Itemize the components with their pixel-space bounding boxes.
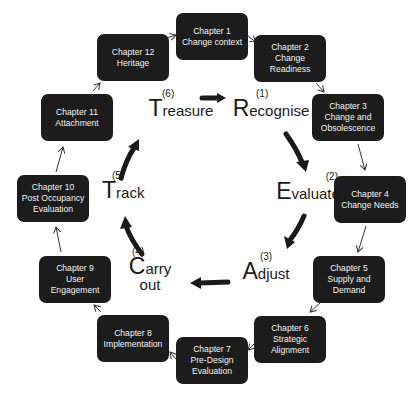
chapter-7-subtitle-line-2: Evaluation bbox=[192, 366, 232, 377]
stage-6-initial: T bbox=[149, 95, 163, 121]
stage-4-second-line: out bbox=[120, 277, 180, 293]
chapter-12-title: Chapter 12 bbox=[112, 47, 155, 58]
chapter-12-subtitle: Heritage bbox=[117, 58, 149, 69]
stage-4-label: Carry bbox=[120, 258, 180, 277]
chapter-8-subtitle: Implementation bbox=[104, 339, 163, 350]
chapter-11-subtitle: Attachment bbox=[55, 118, 98, 129]
chapter-1-box: Chapter 1 Change context bbox=[176, 13, 248, 60]
connector-arrow-6 bbox=[310, 303, 320, 312]
chapter-2-subtitle-line-1: Change bbox=[275, 53, 305, 64]
connector-arrow-9 bbox=[94, 305, 101, 312]
stage-1-label: Recognise bbox=[226, 100, 316, 119]
chapter-3-subtitle-line-1: Change and bbox=[325, 112, 372, 123]
connector-arrow-5 bbox=[358, 226, 366, 252]
chapter-2-title: Chapter 2 bbox=[271, 42, 309, 53]
chapter-5-subtitle-line-1: Supply and bbox=[327, 274, 370, 285]
arrow-evaluate-to-adjust bbox=[284, 216, 304, 249]
stage-1-initial: R bbox=[233, 95, 250, 121]
chapter-6-box: Chapter 6 Strategic Alignment bbox=[254, 316, 326, 363]
stage-adjust: (3) Adjust bbox=[236, 251, 296, 282]
stage-track: (5) Track bbox=[96, 170, 156, 201]
chapter-8-box: Chapter 8 Implementation bbox=[97, 315, 169, 362]
chapter-6-title: Chapter 6 bbox=[271, 323, 309, 334]
chapter-9-subtitle-line-1: User bbox=[66, 274, 84, 285]
chapter-3-subtitle-line-2: Obsolescence bbox=[321, 123, 375, 134]
chapter-3-box: Chapter 3 Change and Obsolescence bbox=[312, 94, 384, 141]
chapter-4-title: Chapter 4 bbox=[351, 189, 389, 200]
chapter-10-box: Chapter 10 Post Occupancy Evaluation bbox=[17, 175, 89, 222]
chapter-7-subtitle-line-1: Pre-Design bbox=[191, 355, 234, 366]
stage-5-label: Track bbox=[96, 182, 156, 201]
chapter-8-title: Chapter 8 bbox=[114, 328, 152, 339]
chapter-9-subtitle-line-2: Engagement bbox=[51, 285, 100, 296]
chapter-11-box: Chapter 11 Attachment bbox=[41, 94, 113, 141]
stage-treasure: (6) Treasure bbox=[136, 88, 226, 119]
stage-1-rest: ecognise bbox=[249, 102, 309, 119]
stage-2-initial: E bbox=[276, 178, 291, 204]
stage-2-label: Evaluate bbox=[268, 183, 348, 202]
arrow-recognise-to-evaluate bbox=[286, 134, 309, 172]
chapter-5-box: Chapter 5 Supply and Demand bbox=[313, 256, 385, 303]
chapter-9-title: Chapter 9 bbox=[56, 263, 94, 274]
connector-arrow-11 bbox=[56, 147, 63, 172]
chapter-3-title: Chapter 3 bbox=[329, 101, 367, 112]
chapter-12-box: Chapter 12 Heritage bbox=[97, 34, 169, 81]
stage-recognise: (1) Recognise bbox=[226, 88, 316, 119]
stage-6-label: Treasure bbox=[136, 100, 226, 119]
chapter-5-subtitle-line-2: Demand bbox=[333, 285, 365, 296]
stage-3-rest: djust bbox=[258, 265, 290, 282]
chapter-7-box: Chapter 7 Pre-Design Evaluation bbox=[176, 337, 248, 384]
stage-5-rest: rack bbox=[116, 184, 144, 201]
stage-2-rest: valuate bbox=[291, 185, 339, 202]
chapter-10-subtitle-line-1: Post Occupancy bbox=[22, 193, 85, 204]
chapter-6-subtitle-line-2: Alignment bbox=[271, 345, 309, 356]
chapter-6-subtitle-line-1: Strategic bbox=[273, 334, 307, 345]
connector-arrow-10 bbox=[56, 227, 61, 252]
stage-6-rest: reasure bbox=[163, 102, 214, 119]
stage-3-initial: A bbox=[242, 258, 257, 284]
chapter-2-subtitle-line-2: Readiness bbox=[270, 64, 311, 75]
arrow-recognise-to-evaluate-shaft bbox=[286, 134, 302, 162]
stage-evaluate-label: (2) Evaluate bbox=[268, 171, 348, 202]
arrow-carry-out-to-track-head bbox=[120, 216, 132, 229]
chapter-1-subtitle: Change context bbox=[182, 37, 242, 48]
chapter-5-title: Chapter 5 bbox=[330, 263, 368, 274]
stage-3-label: Adjust bbox=[236, 263, 296, 282]
arrow-adjust-to-carry-out bbox=[190, 277, 228, 289]
arrow-adjust-to-carry-out-shaft bbox=[200, 282, 228, 283]
connector-arrow-4 bbox=[358, 144, 365, 170]
stage-5-initial: T bbox=[102, 177, 116, 203]
chapter-2-box: Chapter 2 Change Readiness bbox=[254, 35, 326, 82]
connector-arrow-3 bbox=[316, 83, 324, 92]
connector-arrow-12 bbox=[93, 83, 100, 91]
arrow-evaluate-to-adjust-shaft bbox=[290, 216, 304, 240]
stage-carry-out: (4) Carry out bbox=[120, 246, 180, 293]
chapter-4-subtitle: Change Needs bbox=[341, 200, 398, 211]
chapter-10-subtitle-line-2: Evaluation bbox=[33, 204, 73, 215]
chapter-9-box: Chapter 9 User Engagement bbox=[39, 256, 111, 303]
stage-4-rest: arry bbox=[145, 260, 171, 277]
chapter-7-title: Chapter 7 bbox=[193, 344, 231, 355]
chapter-10-title: Chapter 10 bbox=[32, 182, 75, 193]
chapter-11-title: Chapter 11 bbox=[56, 107, 98, 118]
arrow-adjust-to-carry-out-head bbox=[190, 277, 201, 289]
chapter-1-title: Chapter 1 bbox=[193, 26, 231, 37]
